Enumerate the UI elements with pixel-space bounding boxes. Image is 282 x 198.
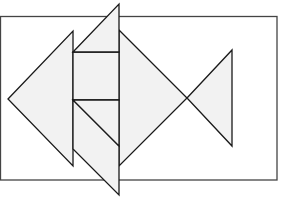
fish-tangram-diagram xyxy=(0,0,282,198)
tail-triangle xyxy=(187,50,232,146)
top-triangle xyxy=(73,4,119,52)
upper-square xyxy=(73,52,119,100)
left-large-triangle xyxy=(8,31,73,166)
body-right-triangle xyxy=(119,30,187,166)
